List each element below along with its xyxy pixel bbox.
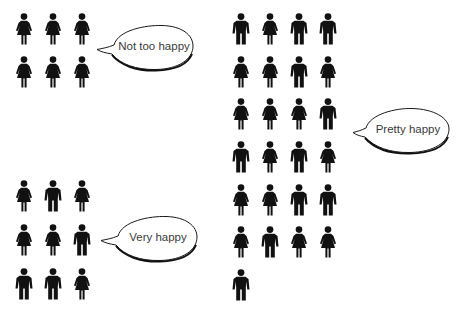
female-figure-icon: [43, 56, 63, 88]
female-figure-icon: [289, 226, 309, 258]
male-figure-icon: [289, 184, 309, 216]
male-figure-icon: [289, 13, 309, 45]
female-figure-icon: [72, 268, 92, 300]
female-figure-icon: [260, 56, 280, 88]
female-figure-icon: [231, 56, 251, 88]
male-figure-icon: [289, 56, 309, 88]
speech-bubble-very-happy: Very happy: [100, 215, 200, 263]
female-figure-icon: [72, 13, 92, 45]
female-figure-icon: [14, 224, 34, 256]
male-figure-icon: [231, 269, 251, 301]
male-figure-icon: [260, 226, 280, 258]
speech-bubble-not-too-happy: Not too happy: [96, 24, 196, 72]
male-figure-icon: [318, 184, 338, 216]
female-figure-icon: [43, 13, 63, 45]
female-figure-icon: [318, 226, 338, 258]
speech-bubble-pretty-happy: Pretty happy: [352, 107, 452, 155]
bubble-label: Not too happy: [116, 40, 192, 52]
bubble-label: Pretty happy: [368, 123, 448, 135]
male-figure-icon: [318, 98, 338, 130]
female-figure-icon: [14, 180, 34, 212]
male-figure-icon: [43, 268, 63, 300]
male-figure-icon: [72, 224, 92, 256]
female-figure-icon: [231, 98, 251, 130]
female-figure-icon: [14, 13, 34, 45]
female-figure-icon: [14, 56, 34, 88]
male-figure-icon: [318, 13, 338, 45]
female-figure-icon: [72, 180, 92, 212]
male-figure-icon: [14, 268, 34, 300]
group-not-too-happy: [14, 13, 101, 88]
group-pretty-happy: [231, 13, 347, 301]
male-figure-icon: [43, 180, 63, 212]
female-figure-icon: [260, 141, 280, 173]
female-figure-icon: [260, 98, 280, 130]
female-figure-icon: [289, 98, 309, 130]
bubble-label: Very happy: [120, 231, 196, 243]
female-figure-icon: [231, 184, 251, 216]
female-figure-icon: [318, 141, 338, 173]
female-figure-icon: [43, 224, 63, 256]
group-very-happy: [14, 180, 101, 300]
female-figure-icon: [72, 56, 92, 88]
male-figure-icon: [289, 141, 309, 173]
male-figure-icon: [231, 13, 251, 45]
male-figure-icon: [231, 141, 251, 173]
female-figure-icon: [260, 184, 280, 216]
female-figure-icon: [260, 13, 280, 45]
female-figure-icon: [231, 226, 251, 258]
female-figure-icon: [318, 56, 338, 88]
